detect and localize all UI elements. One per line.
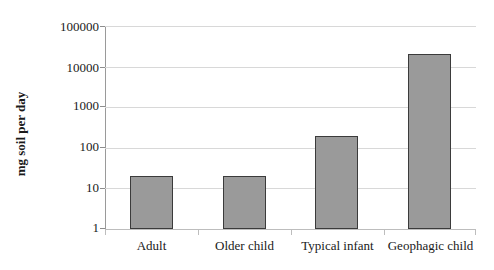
y-tick-label: 10 — [3, 181, 99, 194]
category-tick — [475, 229, 476, 235]
gridline-100000 — [105, 26, 476, 27]
bar-geophagic-child — [408, 54, 451, 229]
x-tick-label-geophagic-child: Geophagic child — [384, 238, 477, 254]
x-tick-label-typical-infant: Typical infant — [291, 238, 384, 254]
category-tick — [105, 229, 106, 235]
y-tick-label: 10000 — [3, 61, 99, 74]
y-tick-label: 1000 — [3, 99, 99, 112]
category-tick — [384, 229, 385, 235]
bar-chart: mg soil per day 100000 10000 1000 100 10… — [0, 0, 494, 270]
bar-typical-infant — [315, 136, 358, 229]
x-tick-label-older-child: Older child — [198, 238, 291, 254]
category-tick — [291, 229, 292, 235]
bar-older-child — [223, 176, 266, 229]
y-tick-label: 1 — [3, 221, 99, 234]
bar-adult — [130, 176, 173, 229]
plot-area — [105, 26, 476, 229]
category-tick — [198, 229, 199, 235]
y-tick-label: 100000 — [3, 20, 99, 33]
y-tick-label: 100 — [3, 140, 99, 153]
x-tick-label-adult: Adult — [105, 238, 198, 254]
